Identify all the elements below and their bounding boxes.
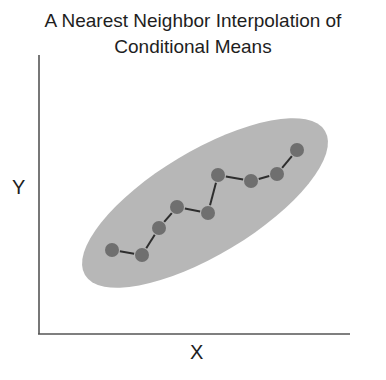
data-point bbox=[135, 248, 149, 262]
data-point bbox=[152, 221, 166, 235]
data-point bbox=[201, 206, 215, 220]
data-point bbox=[290, 143, 304, 157]
data-point bbox=[170, 200, 184, 214]
data-point bbox=[244, 174, 258, 188]
ellipse bbox=[58, 86, 352, 319]
data-cloud-ellipse bbox=[58, 86, 352, 319]
x-axis-label: X bbox=[190, 341, 203, 364]
y-axis-label: Y bbox=[12, 176, 25, 199]
plot-area bbox=[0, 0, 386, 380]
data-point bbox=[105, 243, 119, 257]
data-point bbox=[211, 168, 225, 182]
data-point bbox=[270, 167, 284, 181]
